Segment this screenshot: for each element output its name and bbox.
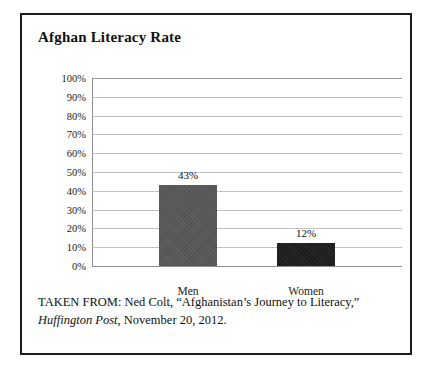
y-axis-tick-label: 10%: [67, 242, 86, 253]
y-axis-tick-label: 30%: [67, 204, 86, 215]
gridline-70%: [92, 134, 402, 135]
y-axis-tick-label: 90%: [67, 91, 86, 102]
gridline-60%: [92, 153, 402, 154]
y-axis-tick-label: 20%: [67, 223, 86, 234]
caption-text-line1: TAKEN FROM: Ned Colt, “Afghanistan’s Jou…: [38, 295, 359, 309]
y-axis-tick-label: 80%: [67, 110, 86, 121]
bar-women[interactable]: [277, 243, 335, 266]
caption-text-line2: , November 20, 2012.: [118, 313, 227, 327]
bar-men[interactable]: [159, 185, 217, 266]
chart-canvas: 100%90%80%70%60%50%40%30%20%10%0%43%Men1…: [92, 78, 402, 266]
y-axis-tick-label: 100%: [62, 73, 87, 84]
gridline-50%: [92, 172, 402, 173]
gridline-10%: [92, 247, 402, 248]
y-axis-tick-label: 40%: [67, 185, 86, 196]
y-axis-tick-label: 60%: [67, 148, 86, 159]
gridline-80%: [92, 116, 402, 117]
page-title: Afghan Literacy Rate: [38, 29, 181, 46]
y-axis-tick-label: 0%: [72, 261, 86, 272]
source-caption: TAKEN FROM: Ned Colt, “Afghanistan’s Jou…: [38, 294, 398, 330]
y-axis-tick-label: 50%: [67, 167, 86, 178]
caption-source-title: Huffington Post: [38, 313, 118, 327]
y-axis-tick-label: 70%: [67, 129, 86, 140]
bar-value-label-women: 12%: [296, 227, 316, 239]
gridline-100%: [92, 78, 402, 79]
gridline-30%: [92, 210, 402, 211]
chart-plot-area: 100%90%80%70%60%50%40%30%20%10%0%43%Men1…: [92, 65, 402, 266]
figure-frame: Afghan Literacy Rate 100%90%80%70%60%50%…: [20, 13, 412, 355]
gridline-90%: [92, 97, 402, 98]
gridline-20%: [92, 228, 402, 229]
gridline-0%: [92, 266, 402, 267]
gridline-40%: [92, 191, 402, 192]
bar-value-label-men: 43%: [178, 169, 198, 181]
